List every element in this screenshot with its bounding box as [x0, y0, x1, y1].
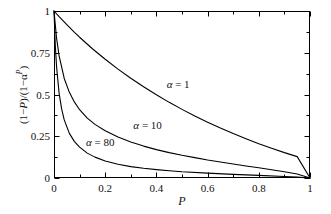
curve-label-alpha-10: α = 10 [133, 120, 162, 131]
x-tick-label: 0.8 [252, 183, 266, 194]
y-tick-label: 0.75 [31, 47, 50, 58]
curve-series-0 [54, 11, 310, 178]
x-tick-label: 0 [51, 183, 57, 194]
y-tick-label: 1 [45, 6, 51, 17]
curve-label-alpha-1: α = 1 [167, 79, 190, 90]
x-axis-title: P [178, 195, 185, 207]
y-tick-label: 0.25 [31, 131, 50, 142]
x-tick-label: 0.6 [201, 183, 215, 194]
curve-label-alpha-80: α = 80 [86, 137, 115, 148]
x-tick-label: 0.4 [150, 183, 164, 194]
curve-series-1 [54, 11, 310, 178]
x-tick-label: 1 [307, 183, 313, 194]
curve-series-2 [54, 11, 310, 178]
y-axis-title: (1−P)/(1−αP) [18, 66, 29, 124]
figure-container: 00.20.40.60.81 00.250.50.751 α = 1α = 10… [0, 0, 331, 214]
y-tick-label: 0 [45, 173, 51, 184]
y-tick-label: 0.5 [36, 89, 50, 100]
x-tick-label: 0.2 [98, 183, 112, 194]
